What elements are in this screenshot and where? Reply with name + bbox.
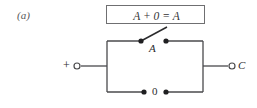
input-terminal-circle-icon[interactable] (74, 63, 80, 69)
switch-a-pivot-contact-dot (138, 38, 143, 43)
switch-a-fixed-contact-dot (163, 38, 168, 43)
output-terminal-label: C (238, 59, 245, 71)
zero-left-contact-dot (141, 89, 146, 94)
output-terminal-circle-icon[interactable] (229, 63, 235, 69)
constant-zero-label: 0 (152, 85, 158, 97)
switching-circuit-diagram (0, 0, 257, 108)
switch-a-label: A (149, 42, 156, 54)
boolean-identity-figure: (a) A + 0 = A A 0 + C (0, 0, 257, 108)
zero-right-contact-dot (163, 89, 168, 94)
switch-arm-a[interactable] (141, 27, 167, 41)
input-terminal-label: + (63, 59, 70, 71)
